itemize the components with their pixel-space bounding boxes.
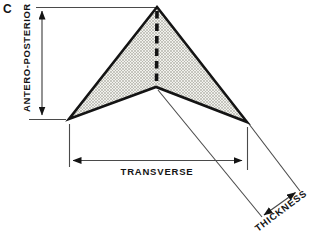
figure-panel-label: C <box>3 2 12 16</box>
antero-posterior-label: ANTERO-POSTERIOR <box>21 3 32 112</box>
transverse-label: TRANSVERSE <box>121 166 194 177</box>
dimensions-diagram-svg: C ANTERO-POSTERIOR TRANSVERSE THICKNESS <box>0 0 311 235</box>
thickness-label: THICKNESS <box>253 187 309 233</box>
figure-panel: C ANTERO-POSTERIOR TRANSVERSE THICKNESS <box>0 0 311 235</box>
thickness-leader-line-lower <box>249 124 300 191</box>
